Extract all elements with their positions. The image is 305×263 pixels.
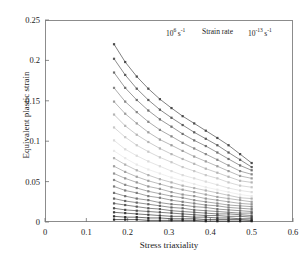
data-point-marker [182,124,184,126]
data-point-marker [227,209,229,211]
data-point-marker [136,75,138,77]
data-point-marker [182,185,184,187]
data-point-marker [113,215,115,217]
data-point-marker [136,144,138,146]
data-point-marker [205,204,207,206]
x-tick-label: 0.3 [154,227,184,237]
data-point-marker [239,153,241,155]
data-point-marker [159,98,161,100]
data-point-marker [159,165,161,167]
data-point-marker [147,168,149,170]
data-point-marker [170,176,172,178]
data-point-marker [136,218,138,220]
data-point-marker [124,157,126,159]
data-point-marker [205,189,207,191]
data-point-marker [136,99,138,101]
data-point-marker [124,61,126,63]
data-point-marker [193,206,195,208]
data-point-marker [182,133,184,135]
data-point-marker [205,206,207,208]
data-point-marker [147,174,149,176]
data-point-marker [113,87,115,89]
data-point-marker [193,209,195,211]
data-point-marker [159,208,161,210]
data-point-marker [124,101,126,103]
data-point-marker [193,211,195,213]
data-point-marker [147,151,149,153]
x-tick-label: 0.6 [278,227,305,237]
data-point-marker [136,111,138,113]
data-point-marker [124,216,126,218]
data-point-marker [216,205,218,207]
data-point-marker [159,219,161,221]
data-point-marker [170,219,172,221]
data-point-marker [159,172,161,174]
data-point-marker [113,207,115,209]
data-series-line [114,127,252,187]
data-point-marker [136,169,138,171]
data-point-marker [136,216,138,218]
data-point-marker [170,186,172,188]
data-point-marker [147,207,149,209]
data-point-marker [227,158,229,160]
data-point-marker [159,205,161,207]
data-point-marker [251,201,253,203]
data-point-marker [239,159,241,161]
data-point-marker [216,220,218,222]
data-point-marker [170,195,172,197]
data-point-marker [251,181,253,183]
data-point-marker [216,184,218,186]
data-point-marker [159,147,161,149]
data-point-marker [216,196,218,198]
data-point-marker [251,162,253,164]
data-point-marker [170,170,172,172]
data-point-marker [170,215,172,217]
data-point-marker [124,164,126,166]
data-point-marker [170,212,172,214]
data-point-marker [113,71,115,73]
data-point-marker [136,197,138,199]
data-point-marker [124,189,126,191]
data-point-marker [182,204,184,206]
data-point-marker [147,99,149,101]
data-point-marker [124,87,126,89]
data-point-marker [136,202,138,204]
data-point-marker [227,151,229,153]
x-tick-label: 0.2 [113,227,143,237]
data-point-marker [193,195,195,197]
data-point-marker [251,203,253,205]
data-point-marker [251,206,253,208]
data-point-marker [251,186,253,188]
data-point-marker [147,109,149,111]
data-point-marker [205,220,207,222]
data-point-marker [205,130,207,132]
data-point-marker [193,202,195,204]
data-point-marker [216,144,218,146]
annotation-strain-rate-high: 106 s-1 [166,27,185,38]
data-point-marker [182,174,184,176]
data-point-marker [227,206,229,208]
data-point-marker [170,161,172,163]
data-point-marker [239,189,241,191]
data-point-marker [239,220,241,222]
data-point-marker [113,202,115,204]
data-point-marker [136,206,138,208]
data-series-line [114,166,252,202]
data-point-marker [147,185,149,187]
data-point-marker [159,109,161,111]
data-point-marker [239,210,241,212]
data-point-marker [216,151,218,153]
data-series-line [114,44,252,163]
x-tick-label: 0.4 [195,227,225,237]
data-point-marker [113,211,115,213]
data-point-marker [205,160,207,162]
data-point-marker [182,142,184,144]
data-point-marker [124,136,126,138]
data-point-marker [205,181,207,183]
data-point-marker [251,177,253,179]
data-point-marker [113,126,115,128]
data-point-marker [147,121,149,123]
data-point-marker [124,171,126,173]
data-point-marker [136,213,138,215]
data-point-marker [159,178,161,180]
